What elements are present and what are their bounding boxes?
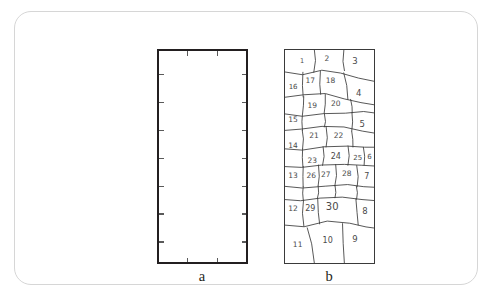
- mesh-col: [314, 50, 316, 73]
- mesh-row-2: [284, 94, 374, 105]
- mesh-col: [324, 114, 325, 127]
- mesh-col: [352, 131, 353, 147]
- axis-tick-right: [242, 186, 247, 187]
- mesh-col: [357, 166, 358, 187]
- mesh-col: [356, 199, 358, 225]
- mesh-col: [324, 94, 325, 113]
- axis-tick-left: [159, 213, 164, 214]
- axis-tick-left: [159, 130, 164, 131]
- mesh-col: [302, 149, 303, 166]
- mesh-col: [356, 186, 357, 199]
- mesh-col: [302, 200, 303, 226]
- mesh-col: [320, 71, 321, 94]
- axis-tick-left: [159, 158, 164, 159]
- axis-tick-left: [159, 102, 164, 103]
- mesh-row-7: [284, 185, 375, 188]
- mesh-row-1: [284, 70, 375, 81]
- mesh-row-9: [284, 221, 375, 228]
- mesh-row-3: [284, 112, 375, 117]
- panel-a: [157, 49, 248, 264]
- mesh-col: [326, 126, 327, 147]
- mesh-col: [303, 97, 304, 114]
- panel-a-rectangle: [157, 49, 248, 264]
- figure-card: a 12316171841519205142122232425613262728…: [14, 11, 478, 285]
- mesh-col: [303, 187, 304, 200]
- mesh-col: [302, 131, 303, 149]
- mesh-col: [302, 72, 303, 97]
- axis-tick-right: [242, 74, 247, 75]
- mesh-row-6: [284, 164, 375, 167]
- mesh-col: [348, 146, 349, 165]
- axis-tick-left: [159, 241, 164, 242]
- axis-tick-left: [159, 186, 164, 187]
- panel-b: 1231617184151920514212223242561326272871…: [284, 49, 375, 264]
- axis-tick-bottom: [217, 258, 218, 263]
- mesh-col: [317, 186, 318, 198]
- axis-tick-right: [242, 213, 247, 214]
- axis-tick-right: [242, 158, 247, 159]
- axis-tick-right: [242, 102, 247, 103]
- axis-tick-right: [242, 130, 247, 131]
- mesh-col: [344, 73, 348, 100]
- axis-tick-left: [159, 74, 164, 75]
- axis-tick-top: [187, 51, 188, 56]
- mesh-col: [335, 164, 337, 185]
- mesh-col: [318, 165, 319, 186]
- mesh-col: [351, 99, 353, 112]
- panel-a-caption: a: [182, 268, 222, 285]
- mesh-row-4: [284, 126, 375, 133]
- mesh-col: [302, 114, 303, 130]
- mesh-col: [352, 113, 353, 131]
- mesh-row-8: [284, 197, 375, 201]
- mesh-row-5: [284, 146, 375, 150]
- axis-tick-right: [242, 241, 247, 242]
- axis-tick-top: [217, 51, 218, 56]
- mesh-col: [307, 228, 314, 263]
- mesh-col: [343, 224, 345, 264]
- panel-b-mesh-lines: [284, 49, 375, 264]
- mesh-col: [323, 147, 325, 166]
- axis-tick-bottom: [187, 258, 188, 263]
- mesh-col: [363, 147, 364, 165]
- panel-b-caption: b: [309, 268, 349, 285]
- mesh-col: [343, 50, 344, 71]
- mesh-col: [318, 199, 320, 224]
- mesh-col: [335, 186, 336, 198]
